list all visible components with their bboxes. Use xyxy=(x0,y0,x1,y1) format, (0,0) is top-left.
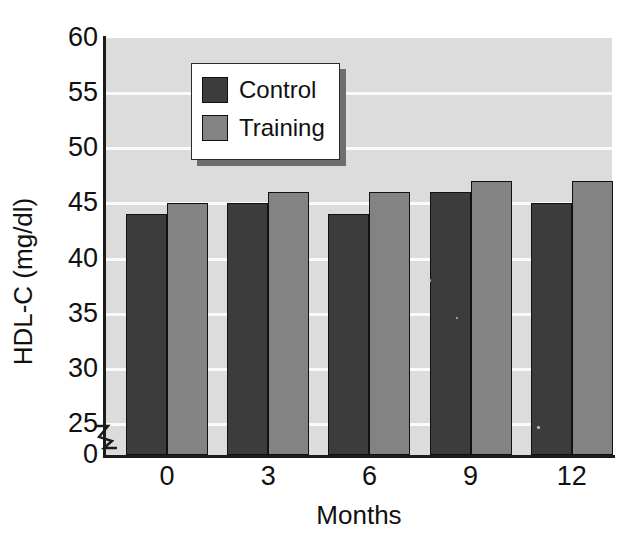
chart-figure: 02530354045505560 036912 HDL-C (mg/dl) M… xyxy=(0,0,637,555)
x-tick-label: 12 xyxy=(537,463,607,490)
scan-speckle xyxy=(456,317,458,319)
bar-control-month-3 xyxy=(227,203,268,455)
axis-break-icon xyxy=(95,424,117,450)
y-tick-label: 0 xyxy=(52,441,98,468)
scan-speckle xyxy=(519,268,521,270)
x-tick-label: 6 xyxy=(334,463,404,490)
bar-training-month-9 xyxy=(471,181,512,455)
y-tick-label: 45 xyxy=(52,189,98,216)
bar-control-month-9 xyxy=(430,192,471,455)
y-tick-label: 25 xyxy=(52,410,98,437)
bar-control-month-12 xyxy=(531,203,572,455)
gridline xyxy=(106,147,612,150)
x-axis-title: Months xyxy=(106,500,612,531)
bar-training-month-0 xyxy=(167,203,208,455)
legend-item-control: Control xyxy=(202,74,316,106)
legend-item-training: Training xyxy=(202,112,325,144)
gridline xyxy=(106,92,612,95)
chart-legend: Control Training xyxy=(191,63,340,160)
x-tick-label: 0 xyxy=(132,463,202,490)
y-tick-label: 55 xyxy=(52,79,98,106)
bar-training-month-3 xyxy=(268,192,309,455)
y-tick-label: 50 xyxy=(52,134,98,161)
legend-swatch-control xyxy=(202,77,228,103)
bar-control-month-0 xyxy=(126,214,167,455)
y-axis-title: HDL-C (mg/dl) xyxy=(8,167,39,397)
x-tick-label: 9 xyxy=(436,463,506,490)
y-tick-label: 30 xyxy=(52,355,98,382)
scan-speckle xyxy=(428,279,431,282)
x-tick-label: 3 xyxy=(233,463,303,490)
y-tick-label: 35 xyxy=(52,300,98,327)
bar-control-month-6 xyxy=(328,214,369,455)
legend-label-training: Training xyxy=(239,116,325,140)
y-tick-label: 60 xyxy=(52,24,98,51)
x-axis-line xyxy=(103,455,615,458)
legend-label-control: Control xyxy=(239,78,316,102)
bar-training-month-6 xyxy=(369,192,410,455)
y-tick-labels: 02530354045505560 xyxy=(42,0,98,555)
y-tick-label: 40 xyxy=(52,245,98,272)
scan-speckle xyxy=(537,426,540,429)
legend-swatch-training xyxy=(202,115,228,141)
y-axis-line xyxy=(103,36,106,457)
bar-training-month-12 xyxy=(572,181,613,455)
